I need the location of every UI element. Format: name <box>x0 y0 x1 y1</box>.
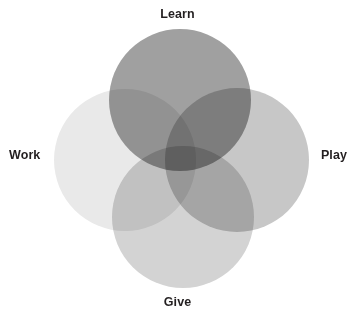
venn-label-work: Work <box>9 149 40 162</box>
venn-circles-canvas <box>0 0 355 318</box>
venn-circle-group <box>54 29 309 288</box>
venn-diagram: Learn Work Play Give <box>0 0 355 318</box>
venn-circle-learn <box>109 29 251 171</box>
venn-label-learn: Learn <box>0 8 355 21</box>
venn-label-give: Give <box>0 296 355 309</box>
venn-label-play: Play <box>321 149 347 162</box>
